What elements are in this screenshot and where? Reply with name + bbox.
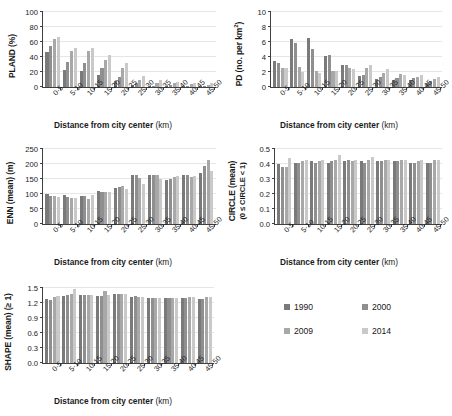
- bar: [90, 295, 93, 364]
- y-tick-label: 0.6: [12, 329, 38, 338]
- y-tick-label: 1.2: [12, 299, 38, 308]
- bar-group: [293, 149, 310, 224]
- y-tick-label: 4: [240, 53, 266, 62]
- bar-group: [78, 149, 95, 224]
- bar: [53, 196, 56, 224]
- x-tick-slot: 40-45: [408, 224, 425, 258]
- x-tick-slot: 40-45: [181, 87, 198, 121]
- bar: [396, 161, 399, 224]
- x-tick-slot: 0-5: [44, 224, 61, 258]
- x-tick-slot: 15-20: [95, 363, 112, 397]
- bar: [173, 177, 176, 224]
- bar: [281, 167, 284, 224]
- bar: [100, 296, 103, 364]
- legend: 1990 2000 2009 2014: [284, 302, 424, 336]
- bar: [413, 163, 416, 225]
- y-tick-label: 6: [240, 38, 266, 47]
- bar-group: [323, 12, 340, 87]
- bar: [273, 61, 276, 87]
- bar: [417, 161, 420, 224]
- bar-group: [147, 12, 164, 87]
- bar: [404, 160, 407, 225]
- legend-item-2009[interactable]: 2009: [284, 326, 346, 336]
- bar: [45, 299, 48, 364]
- bar-group: [408, 149, 425, 224]
- x-tick-slot: 5-10: [289, 87, 306, 121]
- bar: [205, 297, 208, 363]
- x-tick-container: 0-55-1010-1515-2020-2525-3030-3535-4040-…: [43, 224, 216, 258]
- bar: [66, 295, 69, 363]
- x-tick-slot: 35-40: [162, 363, 179, 397]
- bar: [310, 161, 313, 224]
- legend-item-2000[interactable]: 2000: [362, 302, 424, 312]
- x-tick-slot: 15-20: [326, 224, 343, 258]
- x-tick-slot: 5-10: [61, 87, 78, 121]
- bar-group-container: [275, 149, 442, 224]
- bar-group: [392, 149, 409, 224]
- x-tick-slot: 20-25: [342, 224, 359, 258]
- bar: [120, 294, 123, 363]
- x-tick-slot: 45-50: [424, 87, 441, 121]
- bar: [154, 298, 157, 364]
- bar: [193, 176, 196, 224]
- bar: [62, 296, 65, 364]
- bar: [305, 160, 308, 225]
- plot-area-circle: 0.00.10.20.30.40.50-55-1010-1515-2020-25…: [274, 149, 442, 225]
- bar: [277, 63, 280, 87]
- panel-pland: PLAND (%) 0204060801000-55-1010-1515-202…: [0, 0, 226, 139]
- y-tick-label: 60: [12, 38, 38, 47]
- bar: [138, 178, 141, 224]
- plot-area-pland: 0204060801000-55-1010-1515-2020-2525-303…: [42, 12, 216, 88]
- bar: [210, 171, 213, 224]
- bar-group: [61, 12, 78, 87]
- legend-item-2014[interactable]: 2014: [362, 326, 424, 336]
- bar-group: [164, 12, 181, 87]
- bar: [83, 295, 86, 364]
- bar-group: [179, 288, 196, 363]
- bar: [63, 70, 66, 87]
- legend-swatch-2009: [284, 328, 290, 334]
- x-tick-slot: 10-15: [309, 224, 326, 258]
- bar: [307, 38, 310, 88]
- multi-panel-bar-chart-figure: PLAND (%) 0204060801000-55-1010-1515-202…: [0, 0, 452, 416]
- bar: [201, 299, 204, 364]
- bar-group: [425, 149, 442, 224]
- bar-group: [164, 149, 181, 224]
- bar-group: [359, 149, 376, 224]
- bar-group: [112, 149, 129, 224]
- legend-label-2014: 2014: [372, 326, 391, 336]
- bar: [209, 297, 212, 364]
- bar: [66, 197, 69, 224]
- bar: [371, 157, 374, 225]
- bar: [87, 199, 90, 225]
- bar-group: [272, 12, 289, 87]
- bar: [420, 160, 423, 225]
- bar-group: [95, 12, 112, 87]
- bar-group: [289, 12, 306, 87]
- bar: [433, 160, 436, 225]
- bar: [176, 176, 179, 224]
- x-tick-slot: 10-15: [78, 87, 95, 121]
- x-tick-slot: 45-50: [198, 87, 215, 121]
- bar-group: [390, 12, 407, 87]
- y-tick-label: 100: [12, 190, 38, 199]
- bar-group-container: [271, 12, 442, 87]
- bar: [63, 195, 66, 224]
- bar-group: [112, 288, 129, 363]
- x-tick-slot: 0-5: [272, 87, 289, 121]
- bar: [83, 63, 86, 87]
- x-tick-slot: 40-45: [407, 87, 424, 121]
- bar: [351, 161, 354, 224]
- bar-group: [78, 288, 95, 363]
- x-tick-slot: 5-10: [61, 224, 78, 258]
- panel-circle: CIRCLE (mean) (0 ≤ CIRCLE < 1) 0.00.10.2…: [226, 137, 452, 276]
- plot-area-enn: 0501001502002500-55-1010-1515-2020-2525-…: [42, 149, 216, 225]
- bar: [134, 296, 137, 363]
- x-tick-slot: 45-50: [196, 363, 213, 397]
- x-tick-slot: 0-5: [276, 224, 293, 258]
- x-tick-slot: 30-35: [373, 87, 390, 121]
- legend-item-1990[interactable]: 1990: [284, 302, 346, 312]
- bar-group: [196, 288, 213, 363]
- y-tick-label: 200: [12, 160, 38, 169]
- bar-group: [112, 12, 129, 87]
